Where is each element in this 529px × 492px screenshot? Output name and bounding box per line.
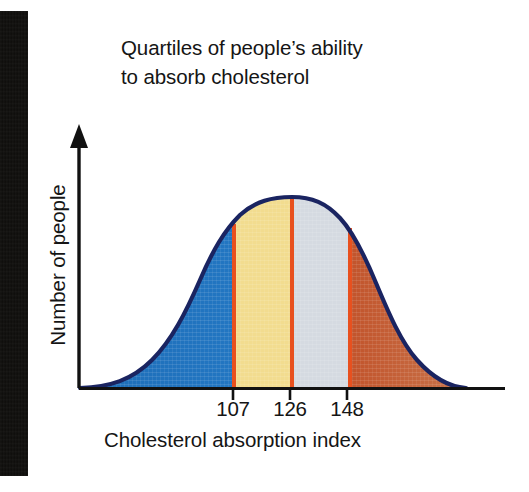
quartile-bands: [60, 180, 500, 392]
chart-figure: Quartiles of people’s ability to absorb …: [0, 0, 529, 492]
x-tick-label-126: 126: [262, 397, 318, 421]
x-tick-label-107: 107: [205, 397, 261, 421]
y-axis-arrowhead: [70, 124, 88, 148]
x-tick-label-148: 148: [319, 397, 375, 421]
x-axis-label: Cholesterol absorption index: [104, 428, 504, 452]
halftone-texture: [60, 180, 500, 392]
